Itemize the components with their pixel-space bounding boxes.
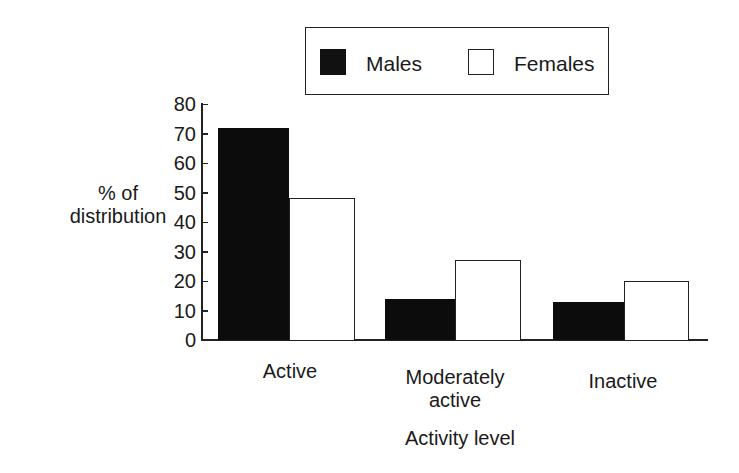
females-swatch xyxy=(468,49,494,75)
category-label-moderately-line1: Moderately xyxy=(385,366,525,389)
y-tick-label: 0 xyxy=(160,330,196,350)
y-tick-mark xyxy=(201,192,208,194)
y-tick-mark xyxy=(201,281,208,283)
y-tick-mark xyxy=(201,222,208,224)
y-tick-label: 50 xyxy=(160,183,196,203)
x-axis-title: Activity level xyxy=(380,427,540,450)
y-tick-label: 40 xyxy=(160,212,196,232)
y-tick-label: 60 xyxy=(160,153,196,173)
bar-males-moderately-active xyxy=(385,299,455,340)
bar-females-active xyxy=(289,198,355,340)
y-tick-mark xyxy=(201,310,208,312)
y-tick-label: 10 xyxy=(160,301,196,321)
bar-males-active xyxy=(218,128,289,340)
legend-females-label: Females xyxy=(514,52,595,76)
y-tick-mark xyxy=(201,251,208,253)
category-label-moderately-line2: active xyxy=(385,389,525,412)
y-tick-label: 70 xyxy=(160,124,196,144)
y-tick-mark xyxy=(201,163,208,165)
y-tick-label: 30 xyxy=(160,242,196,262)
category-label-active: Active xyxy=(240,360,340,383)
bar-females-moderately-active xyxy=(455,260,521,340)
y-tick-mark xyxy=(201,104,208,106)
y-tick-mark xyxy=(201,340,208,342)
males-swatch xyxy=(320,49,346,75)
category-label-moderately-active: Moderately active xyxy=(385,366,525,412)
y-tick-label: 20 xyxy=(160,271,196,291)
category-label-inactive: Inactive xyxy=(568,370,678,393)
y-tick-label: 80 xyxy=(160,94,196,114)
bar-females-inactive xyxy=(624,281,689,340)
y-tick-mark xyxy=(201,133,208,135)
bar-males-inactive xyxy=(553,302,624,340)
y-axis-title-line1: % of xyxy=(68,182,168,205)
y-axis-title: % of distribution xyxy=(68,182,168,228)
chart-legend: Males Females xyxy=(305,27,609,95)
legend-males-label: Males xyxy=(366,52,422,76)
